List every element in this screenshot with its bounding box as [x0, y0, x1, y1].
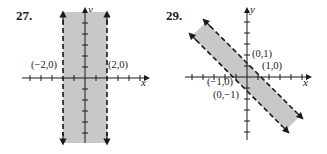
graph-27 — [22, 10, 147, 143]
graphs — [0, 0, 327, 154]
boundary-x-plus-y-1 — [210, 26, 296, 112]
shaded-strip-29 — [192, 22, 300, 130]
graph-29 — [185, 10, 309, 140]
